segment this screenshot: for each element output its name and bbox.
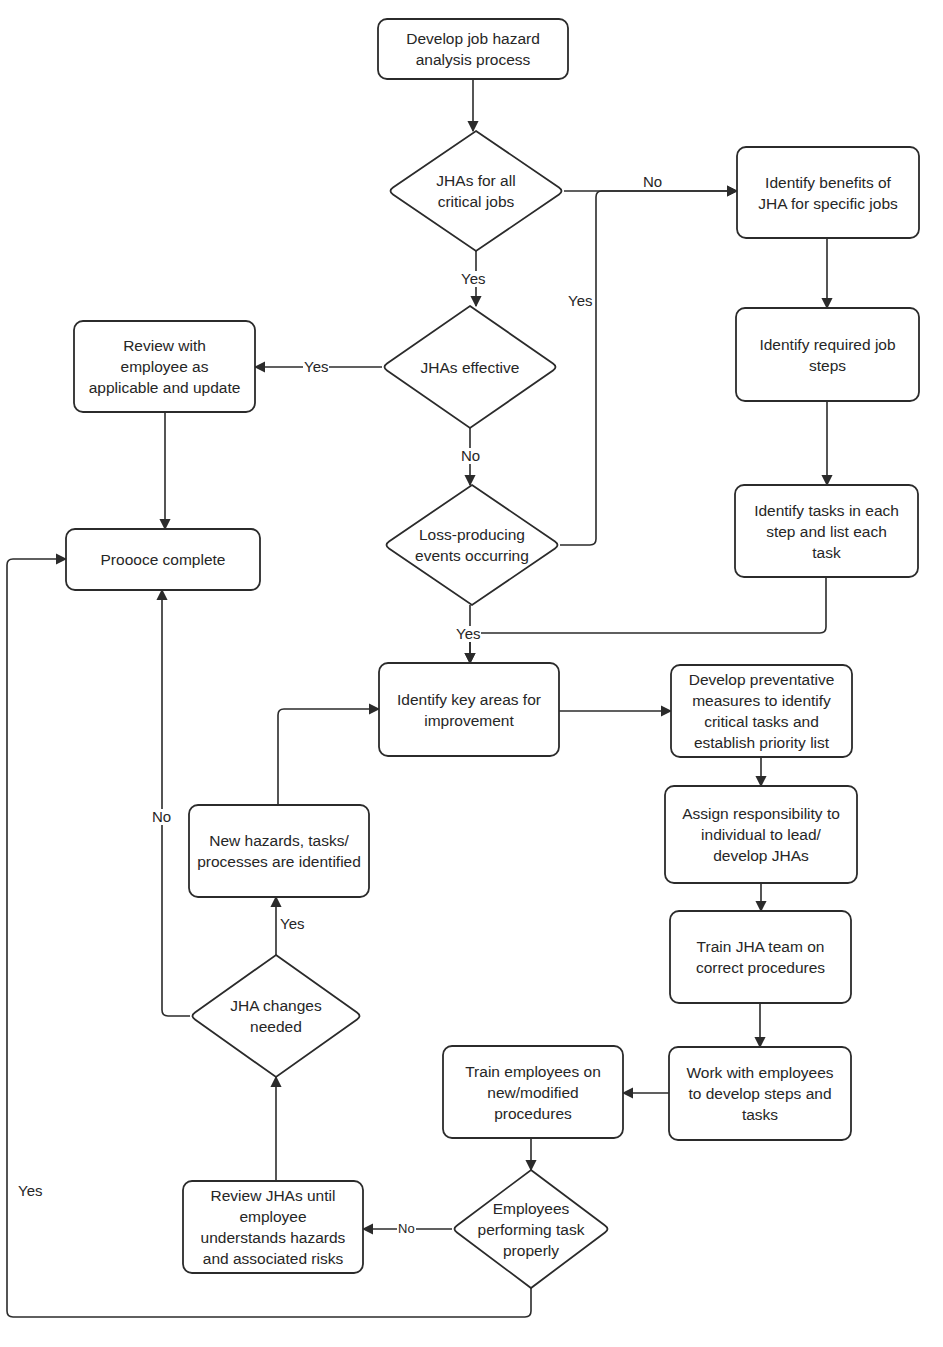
node-label-review_update: Review with employee as applicable and u…: [76, 321, 253, 412]
node-label-tasks: Identify tasks in each step and list eac…: [737, 485, 916, 577]
edge-label-no: No: [151, 809, 172, 825]
edge-label-yes: Yes: [455, 626, 481, 642]
node-label-d_loss: Loss-producing events occurring: [405, 485, 539, 605]
node-label-new_hazards: New hazards, tasks/ processes are identi…: [191, 805, 367, 897]
edge-label-yes: Yes: [567, 293, 593, 309]
node-label-d_effective: JHAs effective: [403, 306, 537, 428]
node-label-d_performing: Employees performing task properly: [471, 1170, 591, 1288]
node-label-start: Develop job hazard analysis process: [380, 19, 566, 79]
node-label-train_team: Train JHA team on correct procedures: [672, 911, 849, 1003]
node-label-review_jhas: Review JHAs until employee understands h…: [185, 1181, 361, 1273]
edge-label-yes: Yes: [17, 1183, 43, 1199]
node-label-d_changes: JHA changes needed: [211, 955, 342, 1077]
node-label-work_with: Work with employees to develop steps and…: [671, 1047, 849, 1140]
edge-new_hazards-to-key_areas: [278, 709, 379, 805]
node-label-train_employees: Train employees on new/modified procedur…: [445, 1046, 621, 1138]
node-label-d_critical: JHAs for all critical jobs: [409, 131, 543, 251]
node-label-job_steps: Identify required job steps: [738, 308, 917, 401]
node-label-benefits: Identify benefits of JHA for specific jo…: [739, 147, 917, 238]
edge-label-no: No: [642, 174, 663, 190]
edge-label-yes: Yes: [279, 916, 305, 932]
node-label-complete: Proooce complete: [68, 529, 258, 590]
edge-label-yes: Yes: [460, 271, 486, 287]
node-label-preventative: Develop preventative measures to identif…: [673, 665, 850, 757]
node-label-key_areas: Identify key areas for improvement: [381, 663, 557, 756]
edge-d_changes-to-complete: [162, 590, 190, 1016]
edge-label-no: No: [460, 448, 481, 464]
edge-d_loss-to-benefits: [560, 191, 737, 545]
edge-label-no: No: [397, 1221, 416, 1237]
node-label-assign: Assign responsibility to individual to l…: [667, 786, 855, 883]
edge-label-yes: Yes: [303, 359, 329, 375]
